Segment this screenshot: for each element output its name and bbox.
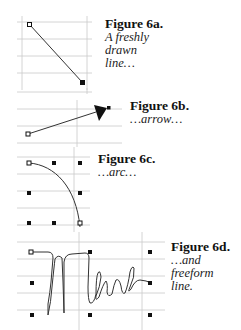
bounding-handle-icon[interactable]	[52, 161, 56, 165]
start-handle-icon[interactable]	[26, 132, 30, 136]
figure-6a: Figure 6a. A freshly drawn line…	[0, 0, 241, 92]
arrow-shaft[interactable]	[28, 112, 96, 134]
figure-title: Figure 6d.	[171, 240, 230, 254]
figure-caption: Figure 6d. …and freeform line.	[171, 240, 230, 293]
bounding-handle-icon[interactable]	[88, 250, 92, 254]
start-handle-icon[interactable]	[28, 23, 32, 27]
bounding-handle-icon[interactable]	[52, 221, 56, 225]
figure-6b: Figure 6b. …arrow…	[0, 92, 241, 147]
bounding-handle-icon[interactable]	[27, 221, 31, 225]
figure-caption: Figure 6b. …arrow…	[130, 99, 189, 126]
bounding-handle-icon[interactable]	[78, 191, 82, 195]
figure-title: Figure 6b.	[130, 99, 189, 113]
figure-description: …arc…	[98, 166, 156, 179]
drawn-line[interactable]	[30, 25, 82, 82]
bounding-handle-icon[interactable]	[148, 313, 152, 317]
figure-description: …arrow…	[130, 113, 189, 126]
arrowhead-icon	[94, 105, 107, 121]
figure-caption: Figure 6c. …arc…	[98, 152, 156, 179]
start-handle-icon[interactable]	[27, 161, 31, 165]
figure-title: Figure 6c.	[98, 152, 156, 166]
arrow-drawing	[0, 92, 241, 147]
start-handle-icon[interactable]	[29, 250, 33, 254]
bounding-handle-icon[interactable]	[88, 313, 92, 317]
drawn-arc[interactable]	[29, 163, 80, 227]
figure-6d: Figure 6d. …and freeform line.	[0, 232, 241, 330]
end-handle-icon[interactable]	[80, 80, 85, 85]
end-handle-icon[interactable]	[148, 281, 152, 285]
gridlines	[17, 88, 122, 147]
end-handle-icon[interactable]	[107, 106, 111, 110]
figure-description: …and freeform line.	[171, 254, 230, 293]
bounding-handle-icon[interactable]	[30, 281, 34, 285]
freeform-stroke[interactable]	[32, 252, 150, 315]
figure-6c: Figure 6c. …arc…	[0, 147, 241, 232]
figure-caption: Figure 6a. A freshly drawn line…	[105, 17, 163, 70]
end-handle-icon[interactable]	[78, 221, 82, 225]
bounding-handle-icon[interactable]	[78, 161, 82, 165]
figure-description: A freshly drawn line…	[105, 31, 163, 70]
gridlines	[17, 16, 92, 90]
figure-title: Figure 6a.	[105, 17, 163, 31]
bounding-handle-icon[interactable]	[30, 313, 34, 317]
bounding-handle-icon[interactable]	[27, 191, 31, 195]
bounding-handle-icon[interactable]	[148, 250, 152, 254]
